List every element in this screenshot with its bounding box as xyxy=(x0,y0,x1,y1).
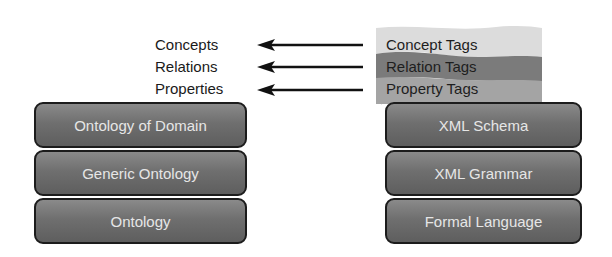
ontology-stack: Ontology of Domain Generic Ontology Onto… xyxy=(34,102,247,246)
tag-relation: Relation Tags xyxy=(386,58,477,76)
block-formal-language: Formal Language xyxy=(385,198,582,244)
block-generic-ontology: Generic Ontology xyxy=(34,150,247,196)
arrow-left-icon xyxy=(257,39,365,51)
block-xml-grammar: XML Grammar xyxy=(385,150,582,196)
arrow-left-icon xyxy=(257,61,365,73)
label-concepts: Concepts xyxy=(155,36,218,54)
block-ontology: Ontology xyxy=(34,198,247,244)
tag-property: Property Tags xyxy=(386,80,478,98)
block-xml-schema: XML Schema xyxy=(385,102,582,148)
xml-stack: XML Schema XML Grammar Formal Language xyxy=(385,102,582,246)
arrow-left-icon xyxy=(257,84,365,96)
block-ontology-of-domain: Ontology of Domain xyxy=(34,102,247,148)
tag-concept: Concept Tags xyxy=(386,36,477,54)
label-relations: Relations xyxy=(155,58,218,76)
label-properties: Properties xyxy=(155,80,223,98)
